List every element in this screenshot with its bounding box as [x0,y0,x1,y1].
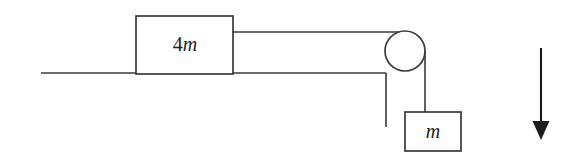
gravity-arrow-icon [533,48,550,140]
gravity-arrow-head [533,121,550,140]
pulley-wheel [385,31,425,71]
block-m-label: m [426,120,440,142]
diagram-canvas: 4m m [0,0,579,162]
block-4m-label-symbol: m [183,33,197,55]
block-4m-label: 4m [173,33,197,55]
block-m-label-symbol: m [426,120,440,142]
block-4m-label-number: 4 [173,33,183,55]
pulley-system-diagram: 4m m [0,0,579,162]
